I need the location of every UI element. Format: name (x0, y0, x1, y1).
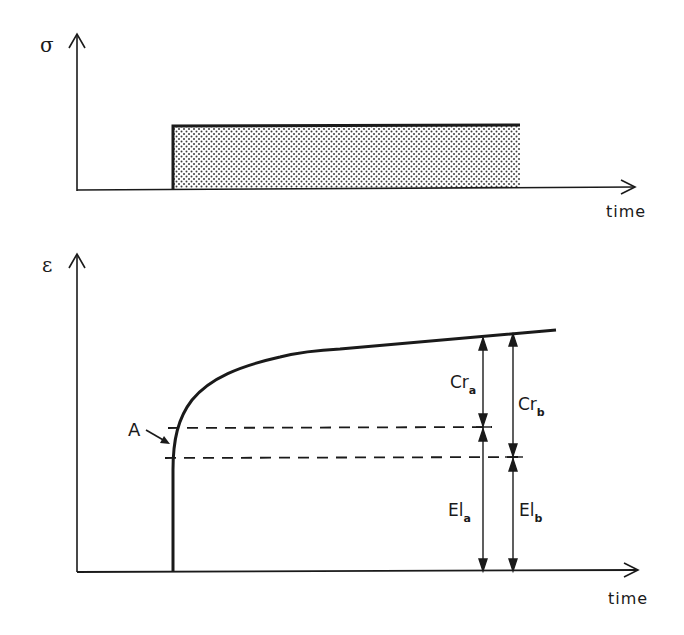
reference-line-a (168, 427, 492, 428)
dimension-arrows-b (505, 334, 523, 571)
strain-x-axis (77, 570, 638, 572)
strain-y-label: ε (42, 253, 52, 277)
point-a-arrowhead-icon (160, 436, 170, 444)
strain-panel: A Cra Crb Ela (42, 253, 648, 608)
creep-a-label: Cra (450, 372, 476, 397)
creep-b-label: Crb (518, 394, 545, 419)
point-a-label: A (128, 419, 141, 440)
elastic-b-label: Elb (519, 500, 542, 525)
stress-x-label: time (606, 202, 646, 221)
stress-panel: σ time (40, 33, 646, 221)
dimension-arrows-a (476, 338, 492, 571)
reference-line-b (165, 457, 523, 458)
stress-shaded-region (173, 126, 520, 188)
elastic-a-label: Ela (448, 500, 471, 525)
creep-diagram: σ time A (0, 0, 684, 635)
creep-curve (173, 330, 556, 572)
stress-y-label: σ (40, 33, 54, 57)
strain-x-label: time (608, 589, 648, 608)
